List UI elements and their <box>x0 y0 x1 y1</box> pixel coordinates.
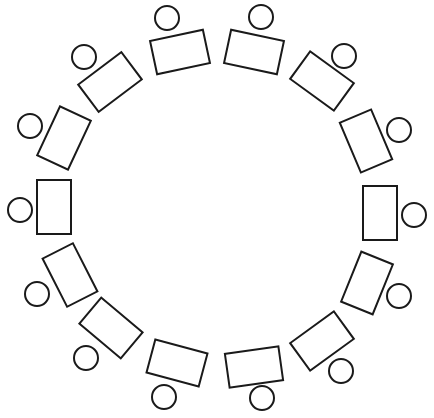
station-13 <box>18 106 91 169</box>
station-1 <box>150 6 210 74</box>
desk-icon <box>43 243 98 307</box>
station-10 <box>74 298 143 370</box>
desk-icon <box>37 106 91 169</box>
desk-icon <box>37 180 71 234</box>
station-14 <box>72 45 142 112</box>
circular-seating-diagram <box>0 0 434 418</box>
station-8 <box>225 346 283 410</box>
chair-icon <box>402 203 426 227</box>
chair-icon <box>74 346 98 370</box>
station-6 <box>341 252 411 315</box>
chair-icon <box>8 198 32 222</box>
chair-icon <box>387 118 411 142</box>
chair-icon <box>152 385 176 409</box>
chair-icon <box>249 5 273 29</box>
chair-icon <box>329 359 353 383</box>
station-5 <box>363 186 426 240</box>
chair-icon <box>25 282 49 306</box>
desk-icon <box>340 110 392 173</box>
station-9 <box>147 340 208 409</box>
desk-icon <box>363 186 397 240</box>
chair-icon <box>250 386 274 410</box>
seating-layout-canvas <box>0 0 434 418</box>
chair-icon <box>387 284 411 308</box>
desk-icon <box>341 252 393 315</box>
station-7 <box>290 311 354 383</box>
chair-icon <box>155 6 179 30</box>
chair-icon <box>72 45 96 69</box>
desk-icon <box>150 30 210 74</box>
desk-icon <box>225 346 283 387</box>
desk-icon <box>224 30 284 74</box>
station-12 <box>8 180 71 234</box>
station-11 <box>25 243 97 307</box>
chair-icon <box>18 114 42 138</box>
desk-icon <box>147 340 208 387</box>
station-3 <box>290 44 356 111</box>
station-2 <box>224 5 284 74</box>
station-4 <box>340 110 411 173</box>
chair-icon <box>332 44 356 68</box>
